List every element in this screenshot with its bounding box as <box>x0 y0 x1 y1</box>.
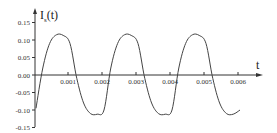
x-tick-label: 0.006 <box>230 78 246 86</box>
y-tick-label: 0.00 <box>18 72 31 80</box>
x-tick-label: 0.001 <box>60 78 76 86</box>
x-axis-label: t <box>256 58 260 72</box>
y-axis-label: Is(t) <box>40 8 58 24</box>
y-tick-label: -0.15 <box>15 124 30 132</box>
y-axis: 0.150.100.050.00-0.05-0.10-0.15 <box>15 8 37 132</box>
chart: 0.150.100.050.00-0.05-0.10-0.15 0.0010.0… <box>0 0 277 133</box>
y-axis-arrow-icon <box>33 8 37 14</box>
y-tick-label: -0.05 <box>15 89 30 97</box>
x-tick-label: 0.003 <box>128 78 144 86</box>
y-tick-label: 0.15 <box>18 19 31 27</box>
y-tick-label: 0.05 <box>18 54 31 62</box>
data-line <box>36 34 240 115</box>
x-axis-arrow-icon <box>256 73 263 77</box>
x-tick-label: 0.005 <box>196 78 212 86</box>
x-axis: 0.0010.0020.0030.0040.0050.006 <box>35 72 263 86</box>
y-tick-label: 0.10 <box>18 37 31 45</box>
y-tick-label: -0.10 <box>15 107 30 115</box>
